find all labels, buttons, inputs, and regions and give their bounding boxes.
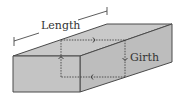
girth-label: Girth xyxy=(130,51,159,64)
box-front-face xyxy=(13,56,80,92)
length-label: Length xyxy=(41,19,80,32)
box-girth-diagram: Length Girth xyxy=(0,0,180,100)
